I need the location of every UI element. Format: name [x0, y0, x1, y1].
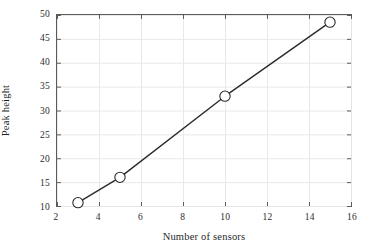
y-axis-title: Peak height — [0, 14, 14, 207]
x-tick-label: 6 — [138, 212, 143, 222]
x-tick-label: 4 — [96, 212, 101, 222]
x-tick-label: 12 — [262, 212, 272, 222]
y-tick-label: 15 — [10, 178, 50, 188]
y-tick-label: 50 — [10, 9, 50, 19]
data-series-layer — [57, 15, 351, 206]
x-tick-label: 16 — [347, 212, 357, 222]
x-tick-label: 8 — [180, 212, 185, 222]
y-tick-label: 30 — [10, 106, 50, 116]
y-tick-label: 45 — [10, 33, 50, 43]
y-tick-label: 35 — [10, 81, 50, 91]
y-tick-label: 25 — [10, 130, 50, 140]
x-tick-label: 2 — [54, 212, 59, 222]
plot-area — [56, 14, 352, 207]
x-axis-title: Number of sensors — [56, 231, 352, 242]
x-tick-label: 10 — [220, 212, 230, 222]
chart-figure: 101520253035404550 246810121416 Number o… — [0, 0, 372, 251]
x-tick-label: 14 — [305, 212, 315, 222]
y-tick-label: 40 — [10, 57, 50, 67]
y-tick-label: 10 — [10, 202, 50, 212]
y-tick-label: 20 — [10, 154, 50, 164]
